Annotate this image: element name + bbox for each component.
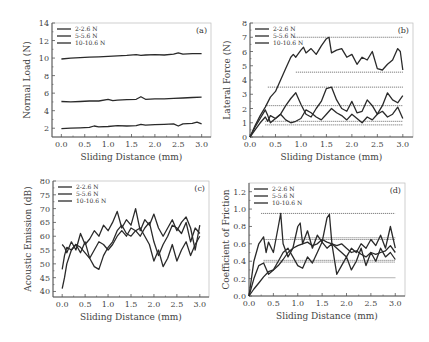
x-tick-label: 0.5 bbox=[78, 140, 91, 149]
series-line bbox=[62, 222, 200, 269]
y-tick-label: 4 bbox=[242, 76, 247, 85]
x-tick-label: 1.0 bbox=[291, 299, 304, 308]
y-tick-label: 80 bbox=[40, 177, 50, 186]
y-tick-label: 4 bbox=[44, 107, 49, 116]
y-tick-label: 75 bbox=[40, 191, 50, 200]
y-tick-label: 0.8 bbox=[233, 222, 246, 231]
y-tick-label: 65 bbox=[40, 218, 50, 227]
x-tick-label: 0.5 bbox=[267, 299, 280, 308]
x-tick-label: 2.5 bbox=[371, 140, 384, 149]
x-tick-label: 2.5 bbox=[171, 300, 184, 309]
x-axis-title: Sliding Distance (mm) bbox=[81, 152, 183, 162]
x-tick-label: 1.5 bbox=[316, 299, 329, 308]
y-tick-label: 8 bbox=[44, 72, 49, 81]
y-tick-label: 10 bbox=[39, 54, 49, 63]
legend-label: 5-5.6 N bbox=[75, 32, 98, 39]
panel-b-lateral-force: 0.00.51.01.52.02.53.0012345678Sliding Di… bbox=[222, 19, 413, 162]
x-tick-label: 3.0 bbox=[389, 299, 402, 308]
legend-label: 10-10.6 N bbox=[272, 199, 302, 206]
panel-d-coefficient-of-friction: 0.00.51.01.52.02.53.00.00.20.40.60.81.01… bbox=[221, 183, 405, 321]
x-tick-label: 2.0 bbox=[149, 140, 162, 149]
x-tick-label: 1.5 bbox=[125, 140, 138, 149]
legend-label: 5-5.6 N bbox=[273, 32, 296, 39]
y-tick-label: 14 bbox=[39, 19, 49, 28]
legend-label: 10-10.6 N bbox=[273, 39, 303, 46]
figure-canvas: 0.00.51.01.52.02.53.02468101214Sliding D… bbox=[0, 0, 429, 342]
legend-label: 2-2.6 N bbox=[76, 183, 99, 190]
x-tick-label: 2.0 bbox=[346, 140, 359, 149]
x-tick-label: 1.5 bbox=[125, 300, 138, 309]
x-tick-label: 3.0 bbox=[193, 300, 206, 309]
y-axis-title: Acoustic Emission (dB) bbox=[23, 186, 33, 292]
y-tick-label: 1.2 bbox=[233, 188, 246, 197]
legend-label: 2-2.6 N bbox=[75, 25, 98, 32]
panel-label: (d) bbox=[390, 186, 401, 195]
y-tick-label: 50 bbox=[40, 260, 50, 269]
x-tick-label: 0.0 bbox=[56, 300, 69, 309]
legend-label: 10-10.6 N bbox=[75, 39, 105, 46]
y-tick-label: 2 bbox=[242, 105, 247, 114]
panel-label: (b) bbox=[398, 26, 409, 35]
x-tick-label: 0.5 bbox=[79, 300, 92, 309]
y-tick-label: 0.6 bbox=[233, 240, 246, 249]
series-line bbox=[61, 122, 201, 129]
x-tick-label: 0.5 bbox=[269, 140, 282, 149]
series-line bbox=[249, 213, 395, 296]
panel-a-normal-load: 0.00.51.01.52.02.53.02468101214Sliding D… bbox=[22, 19, 211, 162]
legend-label: 2-2.6 N bbox=[272, 185, 295, 192]
x-tick-label: 3.0 bbox=[195, 140, 208, 149]
y-tick-label: 7 bbox=[242, 33, 247, 42]
legend-label: 2-2.6 N bbox=[273, 25, 296, 32]
y-tick-label: 70 bbox=[40, 205, 50, 214]
legend-label: 10-10.6 N bbox=[76, 197, 106, 204]
panel-label: (c) bbox=[194, 184, 205, 193]
x-tick-label: 2.0 bbox=[340, 299, 353, 308]
y-tick-label: 40 bbox=[40, 287, 50, 296]
y-axis-title: Coefficient of Friction bbox=[221, 189, 231, 289]
x-axis-title: Sliding Distance (mm) bbox=[80, 312, 182, 322]
x-tick-label: 2.5 bbox=[365, 299, 378, 308]
series-line bbox=[250, 107, 403, 137]
y-tick-label: 1.0 bbox=[233, 205, 246, 214]
y-tick-label: 6 bbox=[44, 89, 49, 98]
y-tick-label: 0.0 bbox=[233, 292, 246, 301]
y-tick-label: 8 bbox=[242, 19, 247, 28]
y-tick-label: 0 bbox=[242, 133, 247, 142]
x-tick-label: 2.5 bbox=[172, 140, 185, 149]
y-tick-label: 60 bbox=[40, 232, 50, 241]
legend-label: 5-5.6 N bbox=[76, 190, 99, 197]
y-axis-title: Normal Load (N) bbox=[22, 41, 32, 119]
series-line bbox=[61, 97, 201, 102]
legend-label: 5-5.6 N bbox=[272, 192, 295, 199]
y-tick-label: 6 bbox=[242, 48, 247, 57]
panel-c-acoustic-emission: 0.00.51.01.52.02.53.0404550556065707580S… bbox=[23, 177, 209, 322]
panel-label: (a) bbox=[196, 26, 207, 35]
y-tick-label: 55 bbox=[40, 246, 50, 255]
y-tick-label: 5 bbox=[242, 62, 247, 71]
y-tick-label: 0.4 bbox=[233, 257, 246, 266]
y-axis-title: Lateral Force (N) bbox=[222, 40, 232, 119]
x-tick-label: 1.5 bbox=[320, 140, 333, 149]
x-tick-label: 3.0 bbox=[396, 140, 409, 149]
x-tick-label: 1.0 bbox=[295, 140, 308, 149]
series-line bbox=[62, 225, 200, 289]
x-axis-title: Sliding Distance (mm) bbox=[276, 311, 378, 321]
y-tick-label: 45 bbox=[40, 274, 50, 283]
series-line bbox=[249, 242, 395, 296]
y-tick-label: 1 bbox=[242, 119, 247, 128]
y-tick-label: 3 bbox=[242, 90, 247, 99]
x-tick-label: 2.0 bbox=[148, 300, 161, 309]
y-tick-label: 12 bbox=[39, 37, 49, 46]
y-tick-label: 2 bbox=[44, 124, 49, 133]
x-tick-label: 1.0 bbox=[102, 300, 115, 309]
x-axis-title: Sliding Distance (mm) bbox=[281, 152, 383, 162]
series-line bbox=[61, 53, 201, 59]
x-tick-label: 0.0 bbox=[55, 140, 68, 149]
x-tick-label: 1.0 bbox=[102, 140, 115, 149]
y-tick-label: 0.2 bbox=[233, 275, 246, 284]
